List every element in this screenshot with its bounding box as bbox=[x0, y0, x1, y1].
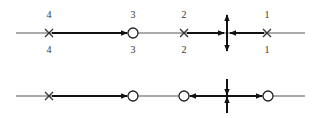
label-above-2: 2 bbox=[182, 10, 187, 20]
label-above-4: 4 bbox=[47, 10, 52, 20]
open-circle-icon bbox=[128, 91, 138, 101]
open-circle-icon bbox=[179, 91, 189, 101]
label-above-3: 3 bbox=[131, 10, 136, 20]
label-above-1: 1 bbox=[265, 10, 270, 20]
label-below-3: 3 bbox=[131, 45, 136, 55]
open-circle-icon bbox=[128, 28, 138, 38]
top-row bbox=[16, 15, 305, 51]
bottom-row bbox=[16, 79, 305, 113]
label-below-1: 1 bbox=[265, 45, 270, 55]
open-circle-icon bbox=[263, 91, 273, 101]
label-below-4: 4 bbox=[47, 45, 52, 55]
label-below-2: 2 bbox=[182, 45, 187, 55]
